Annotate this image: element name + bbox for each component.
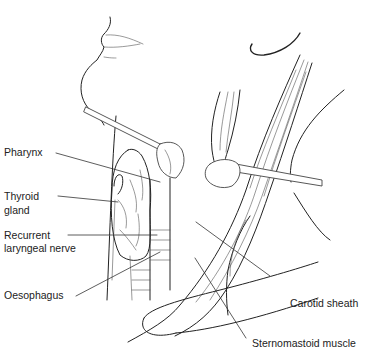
lower-retractor <box>205 160 322 188</box>
label-recurrent-line2: laryngeal nerve <box>4 242 76 255</box>
label-recurrent-line1: Recurrent <box>4 229 50 242</box>
sternomastoid-muscle <box>128 55 312 342</box>
anatomy-figure: Pharynx Thyroid gland Recurrent laryngea… <box>0 0 381 362</box>
label-oesophagus: Oesophagus <box>4 289 64 302</box>
label-pharynx: Pharynx <box>4 146 43 159</box>
ear-curve <box>251 33 301 55</box>
oesophagus-trachea <box>130 178 170 300</box>
upper-retractor <box>84 107 184 178</box>
face-profile <box>81 17 143 300</box>
thyroid-gland <box>111 149 150 260</box>
carotid-sheath <box>211 90 250 315</box>
leader-lines <box>56 153 270 338</box>
label-thyroid-line2: gland <box>4 204 30 217</box>
label-thyroid-line1: Thyroid <box>4 190 39 203</box>
label-sternomastoid-muscle: Sternomastoid muscle <box>252 337 356 350</box>
label-carotid-sheath: Carotid sheath <box>290 297 358 310</box>
